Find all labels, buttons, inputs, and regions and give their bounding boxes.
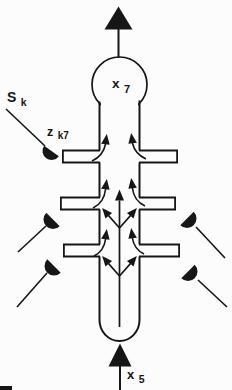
synapse-terminal-low-right — [181, 265, 227, 307]
synapse-terminal-mid-right — [180, 212, 225, 258]
axon-output-arrowhead-icon — [105, 7, 133, 30]
synapse-terminal-low-left — [17, 259, 61, 307]
flow-fan-upper-left-arrow — [99, 205, 120, 228]
neuron-dendrite-figure: S k z k7 x 7 x 5 — [0, 0, 232, 390]
label-synaptic-weight: z k7 — [47, 122, 69, 141]
flow-fan-lower-left-arrow — [99, 253, 120, 276]
soma-trunk-junction — [101, 97, 138, 113]
axon-input-arrowhead-icon — [109, 344, 132, 367]
dendrite-branch-right-1 — [139, 151, 177, 163]
dendrite-branch-right-3 — [139, 245, 179, 257]
flow-fan-lower-right-arrow — [120, 253, 141, 276]
central-flow-arrow — [115, 190, 124, 328]
dendrite-branch-left-1 — [63, 151, 100, 163]
scan-artifact-mark — [0, 386, 12, 390]
dendrite-branch-left-3 — [64, 245, 100, 257]
label-presynaptic-signal: S k — [7, 88, 27, 108]
flow-fan-upper-right-arrow — [120, 205, 141, 228]
neuron-diagram-canvas: S k z k7 x 7 x 5 — [0, 0, 232, 390]
synapse-terminal-mid-left — [18, 213, 60, 252]
dendrite-branch-right-2 — [139, 198, 175, 210]
label-dendrite-input: x 5 — [127, 365, 145, 385]
